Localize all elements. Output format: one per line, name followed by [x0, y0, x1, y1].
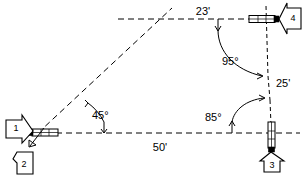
callout-3-label: 3	[269, 160, 274, 170]
callout-3[interactable]: 3	[260, 152, 284, 172]
survey-diagram: 45° 95° 85° 23' 25' 50'	[0, 0, 305, 177]
callout-4-label: 4	[290, 13, 295, 23]
right-vertical-segment-25ft	[268, 76, 270, 100]
dimension-23ft-label: 23'	[196, 5, 210, 17]
callout-4[interactable]: 4	[279, 3, 301, 34]
callout-1-label: 1	[13, 123, 18, 133]
stake-marker-bottom-right	[268, 122, 275, 152]
angle-95-label: 95°	[222, 55, 239, 67]
angle-85-label: 85°	[205, 111, 222, 123]
stake-marker-top-right	[249, 16, 279, 23]
dimension-25ft-label: 25'	[276, 77, 290, 89]
angle-85-arc	[229, 95, 265, 133]
angle-45-label: 45°	[92, 109, 109, 121]
callout-2[interactable]: 2	[13, 152, 33, 174]
dimension-50ft-label: 50'	[153, 141, 167, 153]
angle-95-arc	[215, 19, 263, 79]
callout-1[interactable]: 1	[6, 115, 33, 143]
callout-2-label: 2	[21, 159, 26, 169]
